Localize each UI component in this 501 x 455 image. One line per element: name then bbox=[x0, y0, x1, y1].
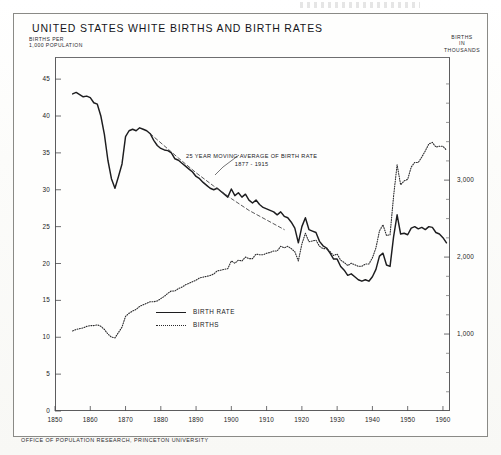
source-footer: OFFICE OF POPULATION RESEARCH, PRINCETON… bbox=[21, 437, 209, 443]
annotation-line1: 25 YEAR MOVING AVERAGE OF BIRTH RATE bbox=[186, 153, 317, 159]
y-tick-label-right: 2,000 bbox=[457, 253, 487, 260]
series-line-birth-rate bbox=[73, 92, 447, 281]
chart-legend: BIRTH RATEBIRTHS bbox=[156, 305, 235, 331]
x-tick-label: 1910 bbox=[252, 416, 282, 423]
x-tick-label: 1860 bbox=[75, 416, 105, 423]
y-tick-label-right: 3,000 bbox=[457, 176, 487, 183]
x-tick-label: 1950 bbox=[393, 416, 423, 423]
legend-label: BIRTH RATE bbox=[193, 308, 235, 315]
y-tick-label-right: 1,000 bbox=[457, 330, 487, 337]
x-tick-label: 1900 bbox=[216, 416, 246, 423]
chart-canvas bbox=[55, 57, 450, 411]
moving-average-annotation: 25 YEAR MOVING AVERAGE OF BIRTH RATE 187… bbox=[186, 152, 317, 168]
page-title: UNITED STATES WHITE BIRTHS AND BIRTH RAT… bbox=[32, 22, 323, 34]
y-tick-label-left: 25 bbox=[28, 223, 50, 230]
left-axis-title-line2: 1,000 POPULATION bbox=[29, 42, 83, 48]
legend-swatch-dotted bbox=[156, 321, 186, 329]
scan-edge-artifact bbox=[300, 2, 420, 8]
annotation-line2: 1877 - 1915 bbox=[186, 160, 317, 168]
y-tick-label-left: 30 bbox=[28, 186, 50, 193]
series-line-births bbox=[73, 142, 447, 337]
left-axis-title: BIRTHS PER 1,000 POPULATION bbox=[29, 36, 83, 49]
y-tick-label-left: 15 bbox=[28, 296, 50, 303]
x-tick-label: 1870 bbox=[111, 416, 141, 423]
x-tick-label: 1890 bbox=[181, 416, 211, 423]
right-axis-title-line3: THOUSANDS bbox=[444, 47, 480, 53]
right-axis-title: BIRTHS IN THOUSANDS bbox=[444, 34, 480, 53]
y-tick-label-left: 40 bbox=[28, 112, 50, 119]
y-tick-label-left: 45 bbox=[28, 75, 50, 82]
y-tick-label-left: 20 bbox=[28, 260, 50, 267]
y-tick-label-left: 0 bbox=[28, 407, 50, 414]
legend-label: BIRTHS bbox=[193, 321, 219, 328]
x-tick-label: 1940 bbox=[357, 416, 387, 423]
plot-area: 1850186018701880189019001910192019301940… bbox=[55, 57, 450, 411]
x-tick-label: 1930 bbox=[322, 416, 352, 423]
legend-item: BIRTHS bbox=[156, 318, 235, 331]
left-axis-title-line1: BIRTHS PER bbox=[29, 36, 64, 42]
x-tick-label: 1960 bbox=[428, 416, 458, 423]
right-axis-title-line2: IN bbox=[459, 40, 465, 46]
right-axis-title-line1: BIRTHS bbox=[451, 34, 472, 40]
x-tick-label: 1920 bbox=[287, 416, 317, 423]
series-line-25-year-moving-average-of-birth-rate-1877-1915 bbox=[150, 134, 284, 230]
x-tick-label: 1850 bbox=[40, 416, 70, 423]
y-tick-label-left: 10 bbox=[28, 333, 50, 340]
legend-item: BIRTH RATE bbox=[156, 305, 235, 318]
y-tick-label-left: 5 bbox=[28, 370, 50, 377]
scanned-chart-sheet: UNITED STATES WHITE BIRTHS AND BIRTH RAT… bbox=[0, 0, 501, 455]
x-tick-label: 1880 bbox=[146, 416, 176, 423]
y-tick-label-left: 35 bbox=[28, 149, 50, 156]
legend-swatch-solid bbox=[156, 308, 186, 316]
